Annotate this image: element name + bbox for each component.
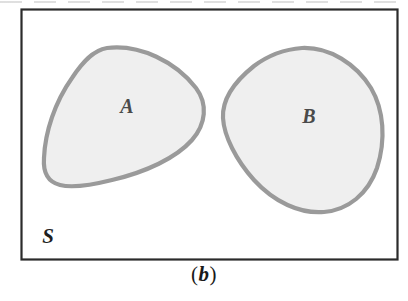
caption-open-paren: (: [191, 262, 199, 286]
universe-set-label: S: [42, 224, 54, 248]
caption-close-paren: ): [210, 262, 218, 286]
caption-letter: b: [199, 262, 210, 286]
set-a-label: A: [118, 95, 133, 117]
set-diagram-figure: A B S (b): [0, 0, 408, 301]
set-b-label: B: [301, 105, 315, 127]
figure-caption: (b): [0, 262, 408, 287]
universe-diagram: A B S: [0, 0, 408, 301]
